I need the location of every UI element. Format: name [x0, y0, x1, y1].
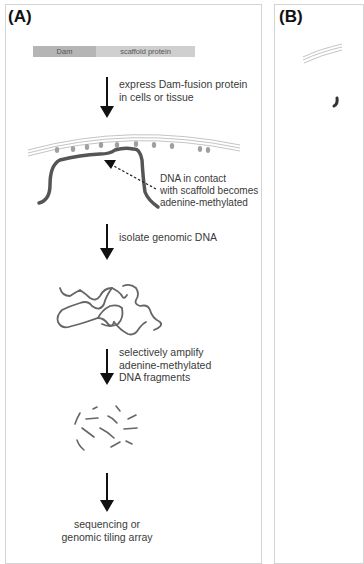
genomic-dna-tangle	[58, 285, 162, 335]
step-amplify-text: selectively amplify adenine-methylated D…	[119, 346, 211, 384]
panel-b-scaffold-lines	[303, 44, 342, 63]
step-sequencing-text: sequencing or genomic tiling array	[47, 518, 167, 543]
arrow-down-icon	[100, 349, 114, 385]
panel-b-dna-strand	[334, 98, 337, 106]
arrow-down-icon	[100, 77, 114, 118]
arrow-down-icon	[100, 473, 114, 512]
annotation-arrow	[104, 160, 156, 189]
dna-fragments	[75, 406, 137, 450]
arrow-down-icon	[100, 224, 114, 260]
step-express-text: express Dam-fusion protein in cells or t…	[119, 78, 247, 103]
dna-strand	[39, 148, 158, 207]
annotation-text: DNA in contact with scaffold becomes ade…	[160, 173, 258, 209]
step-isolate-text: isolate genomic DNA	[119, 231, 217, 244]
